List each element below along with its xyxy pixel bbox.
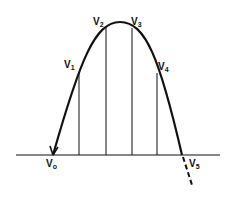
- label-v5: V5: [189, 158, 200, 170]
- parabola-curve: [53, 22, 182, 155]
- label-v2: V2: [93, 16, 104, 28]
- trajectory-diagram: Vo V1 V2 V3 V4 V5: [0, 0, 230, 197]
- label-v0: Vo: [46, 158, 57, 170]
- label-v1: V1: [64, 59, 75, 71]
- label-v3: V3: [131, 16, 142, 28]
- label-v4: V4: [158, 61, 169, 73]
